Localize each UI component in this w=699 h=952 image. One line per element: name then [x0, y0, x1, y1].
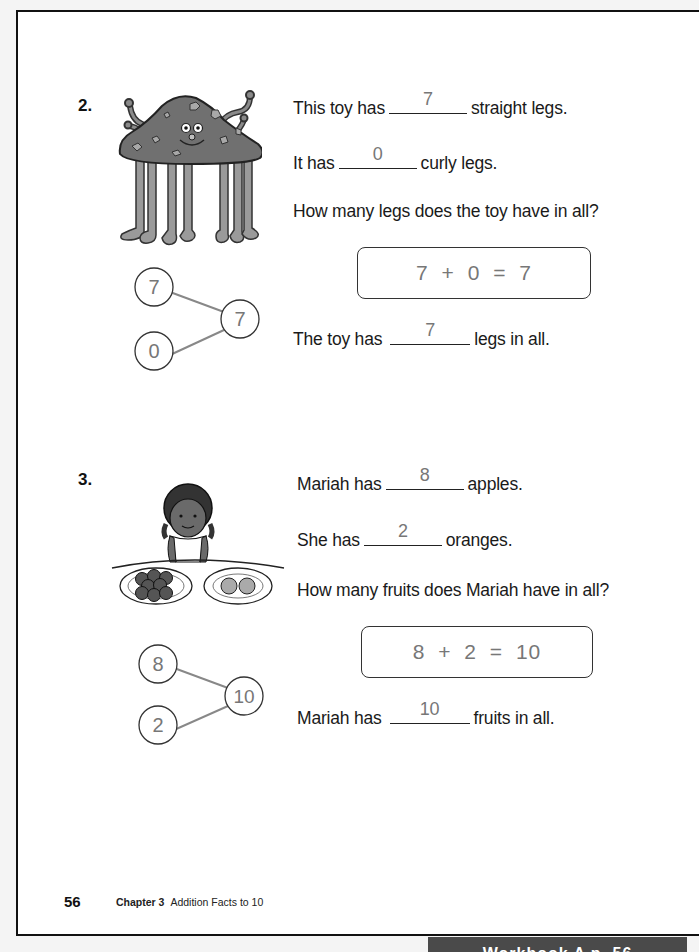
problem-2-line-2: It has0curly legs.: [293, 149, 497, 174]
problem-2-equation-box[interactable]: 7 + 0 = 7: [357, 247, 591, 299]
workbook-banner: Workbook A p. 56: [428, 937, 687, 952]
bond-part-1: 8: [152, 653, 163, 675]
problem-3-number-bond: 8 2 10: [134, 644, 274, 764]
answer-blank[interactable]: 7: [389, 94, 467, 114]
chapter-footer: Chapter 3Addition Facts to 10: [116, 896, 263, 908]
problem-3-question: How many fruits does Mariah have in all?: [297, 580, 609, 601]
problem-3-line-1: Mariah has8apples.: [297, 470, 523, 495]
problem-3-equation-box[interactable]: 8 + 2 = 10: [361, 626, 593, 678]
bond-part-2: 0: [148, 340, 159, 362]
problem-3-conclusion: Mariah has10fruits in all.: [297, 704, 554, 729]
answer-blank[interactable]: 0: [339, 149, 417, 169]
answer-blank[interactable]: 2: [364, 526, 442, 546]
problem-2-number: 2.: [78, 96, 92, 116]
problem-2-line-1: This toy has7straight legs.: [293, 94, 567, 119]
girl-with-fruit-illustration: [108, 476, 288, 606]
answer-blank[interactable]: 10: [390, 704, 470, 724]
toy-monster-illustration: [112, 86, 262, 246]
bond-whole: 7: [234, 308, 245, 330]
problem-3-line-2: She has2oranges.: [297, 526, 512, 551]
problem-2-question: How many legs does the toy have in all?: [293, 201, 598, 222]
chapter-label: Chapter 3: [116, 896, 164, 908]
answer-blank[interactable]: 7: [390, 325, 470, 345]
bond-whole: 10: [233, 686, 254, 707]
problem-2-number-bond: 7 0 7: [130, 264, 270, 384]
problem-2-conclusion: The toy has7legs in all.: [293, 325, 550, 350]
page-number: 56: [64, 893, 81, 910]
bond-part-2: 2: [152, 714, 163, 736]
answer-blank[interactable]: 8: [386, 470, 464, 490]
chapter-title: Addition Facts to 10: [170, 896, 263, 908]
problem-3-number: 3.: [78, 470, 92, 490]
bond-part-1: 7: [148, 276, 159, 298]
